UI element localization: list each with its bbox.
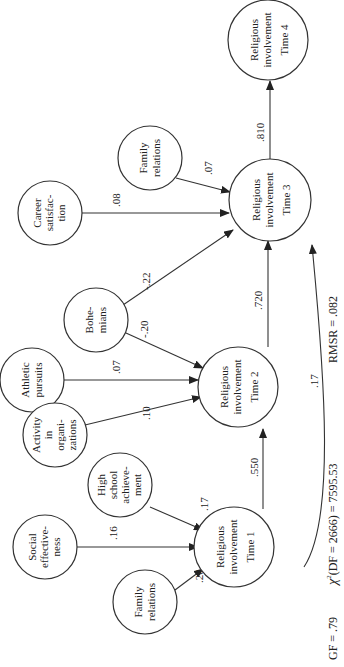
node-religious-involvement-time4: Religious involvement Time 4 xyxy=(228,0,308,80)
node-family-relations-top: Family relations xyxy=(118,126,182,190)
coef-activity-t2: .10 xyxy=(140,406,152,420)
node-social-effectiveness: Social effective- ness xyxy=(13,515,77,579)
node-label: High xyxy=(95,474,107,497)
coef-t2-t3: .720 xyxy=(252,290,264,310)
node-label: Time 1 xyxy=(244,531,256,562)
edge-bohemians-to-t3 xyxy=(123,230,233,305)
node-label: Religious xyxy=(248,19,260,61)
node-label: Time 4 xyxy=(278,24,290,56)
node-label: in xyxy=(42,430,54,439)
node-label: zations xyxy=(66,419,78,450)
coef-bohemians-t3: -.22 xyxy=(140,273,152,290)
node-label: involvement xyxy=(263,173,275,228)
coef-t1-t2: .550 xyxy=(248,457,260,477)
node-label: relations xyxy=(150,139,162,177)
node-high-school-achievement: High school achieve- ment xyxy=(88,453,152,517)
edge-hs-to-t1 xyxy=(150,507,203,530)
node-label: Religious xyxy=(214,526,226,568)
node-label: pursuits xyxy=(32,363,44,398)
node-label: ment xyxy=(131,474,143,496)
node-career-satisfaction: Career satisfac- tion xyxy=(18,181,82,245)
node-label: involvement xyxy=(261,13,273,68)
node-label: Social xyxy=(26,533,38,561)
node-athletic-pursuits: Athletic pursuits xyxy=(0,348,64,412)
chi-value: (DF = 2666) = 7595.53 xyxy=(326,463,340,575)
svg-text:χ2(DF = 2666) = 7595.53: χ2(DF = 2666) = 7595.53 xyxy=(325,463,340,587)
node-label: satisfac- xyxy=(43,194,55,231)
node-label: mians xyxy=(96,307,108,333)
node-label: Time 3 xyxy=(280,184,292,216)
coef-hs-t1: .17 xyxy=(198,497,210,511)
node-label: Bohe- xyxy=(83,306,95,333)
node-label: organi- xyxy=(54,419,66,451)
node-label: achieve- xyxy=(119,466,131,504)
node-label: Career xyxy=(31,198,43,228)
coef-bohemians-t2: -.20 xyxy=(138,320,150,338)
fit-rmsr: RMSR = .082 xyxy=(326,296,340,363)
edge-family-top-to-t3 xyxy=(176,178,230,192)
node-label: Family xyxy=(132,586,144,618)
node-label: ness xyxy=(50,538,62,557)
fit-statistics: GF = .79 χ2(DF = 2666) = 7595.53 RMSR = … xyxy=(325,296,340,660)
node-label: effective- xyxy=(38,526,50,568)
edge-t1-to-t3 xyxy=(304,245,325,567)
coef-family-top-t3: .07 xyxy=(202,161,214,175)
node-label: school xyxy=(107,471,119,500)
node-label: involvement xyxy=(231,360,243,415)
coef-athletic-t2: .07 xyxy=(110,360,122,374)
coef-t3-t4: .810 xyxy=(254,122,266,142)
node-religious-involvement-time3: Religious involvement Time 3 xyxy=(229,159,311,241)
node-religious-involvement-time1: Religious involvement Time 1 xyxy=(194,507,274,587)
coef-career-t3: .08 xyxy=(110,193,122,207)
node-label: Athletic xyxy=(19,362,31,398)
node-activity-in-organizations: Activity in organi- zations xyxy=(23,403,87,467)
fit-gf: GF = .79 xyxy=(326,617,340,660)
node-label: Time 2 xyxy=(248,371,260,402)
node-label: Religious xyxy=(218,366,230,408)
node-label: tion xyxy=(55,204,67,222)
node-label: Activity xyxy=(30,416,42,453)
node-family-relations-bottom: Family relations xyxy=(113,570,177,634)
node-bohemians: Bohe- mians xyxy=(64,288,128,352)
coef-social-t1: .16 xyxy=(107,526,119,540)
node-label: relations xyxy=(145,583,157,621)
node-label: Family xyxy=(137,142,149,174)
node-label: Religious xyxy=(250,179,262,221)
node-label: involvement xyxy=(227,520,239,575)
node-religious-involvement-time2: Religious involvement Time 2 xyxy=(198,347,278,427)
coef-t1-t3: .17 xyxy=(308,374,320,388)
path-diagram: .07 .08 .810 -.22 -.20 .07 .10 .720 .17 … xyxy=(0,0,344,667)
fit-chi-square: χ2(DF = 2666) = 7595.53 xyxy=(325,463,340,587)
